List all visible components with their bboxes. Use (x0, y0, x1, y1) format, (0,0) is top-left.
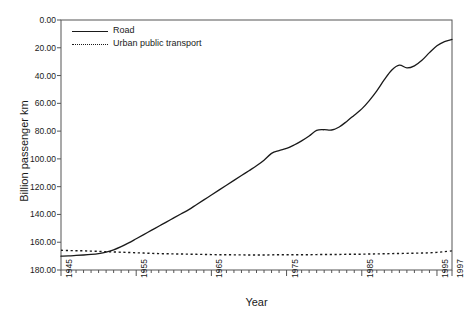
legend-item-road: Road (72, 24, 202, 37)
legend-label: Road (113, 24, 135, 37)
legend-item-urban-public-transport: Urban public transport (72, 37, 202, 50)
x-tick-label: 1965 (215, 259, 224, 278)
legend-label: Urban public transport (113, 37, 202, 50)
x-tick-label: 1995 (441, 259, 450, 278)
x-axis-title: Year (61, 296, 452, 308)
x-tick-label: 1985 (366, 259, 375, 278)
x-tick-label: 1997 (456, 259, 465, 278)
chart-figure: ............................. Billion pa… (0, 0, 468, 315)
x-tick-label: 1945 (65, 259, 74, 278)
chart-legend: RoadUrban public transport (72, 24, 202, 50)
x-axis-tick-labels: 1945195519651975198519951997 (0, 0, 468, 315)
legend-key-icon (72, 26, 108, 36)
legend-key-icon (72, 39, 108, 49)
x-tick-label: 1955 (140, 259, 149, 278)
x-tick-label: 1975 (291, 259, 300, 278)
